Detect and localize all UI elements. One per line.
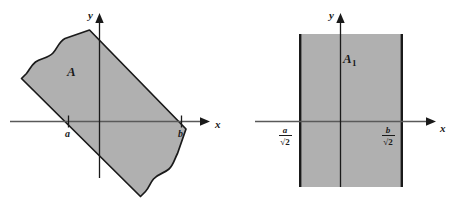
x-axis-arrowhead [426,117,436,125]
x-axis-label: x [439,122,446,134]
figure-root: x y A a b x y A 1 [0,0,462,205]
point-label-a-denominator: √2 [280,137,290,147]
point-label-a-numerator: a [283,125,288,135]
panel-left-region-a: x y A a b [0,0,231,205]
x-axis-arrowhead [200,117,210,125]
region-a1-label: A [342,51,352,66]
panel-right-region-a1: x y A 1 a √2 b √2 [231,0,462,205]
region-a1-label-subscript: 1 [352,58,357,68]
left-panel-svg: x y A a b [0,0,231,205]
y-axis-arrowhead [336,13,344,23]
right-panel-svg: x y A 1 a √2 b √2 [231,0,462,205]
point-label-a: a [65,128,70,139]
point-label-b: b [178,128,183,139]
region-a-label: A [66,64,76,79]
point-label-b-denominator: √2 [383,137,393,147]
x-axis-label: x [214,118,221,130]
y-axis-arrowhead [95,13,103,23]
y-axis-label: y [86,9,93,21]
region-a-shape [22,30,187,197]
y-axis-label: y [327,9,334,21]
point-label-b-numerator: b [386,125,391,135]
